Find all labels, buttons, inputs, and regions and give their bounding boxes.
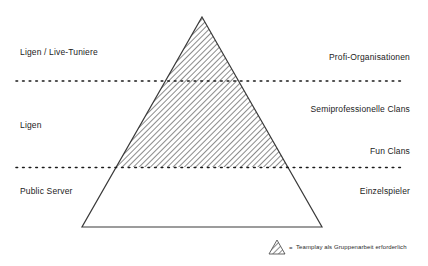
label-ligen-live-tuniere: Ligen / Live-Tuniere bbox=[20, 47, 98, 58]
hatched-triangle-icon bbox=[269, 240, 285, 254]
hatched-pyramid-region bbox=[82, 17, 322, 227]
label-semiprofessionelle-clans: Semiprofessionelle Clans bbox=[310, 104, 410, 115]
label-profi-organisationen: Profi-Organisationen bbox=[329, 52, 410, 63]
pyramid-diagram: Ligen / Live-Tuniere Ligen Public Server… bbox=[0, 0, 428, 266]
legend-equals-sign: = bbox=[289, 245, 293, 251]
label-einzelspieler: Einzelspieler bbox=[360, 186, 410, 197]
label-ligen: Ligen bbox=[20, 120, 42, 131]
label-public-server: Public Server bbox=[20, 186, 73, 197]
pyramid-graphics bbox=[0, 0, 428, 266]
legend-label: Teamplay als Gruppenarbeit erforderlich bbox=[296, 244, 407, 250]
label-fun-clans: Fun Clans bbox=[370, 146, 410, 157]
